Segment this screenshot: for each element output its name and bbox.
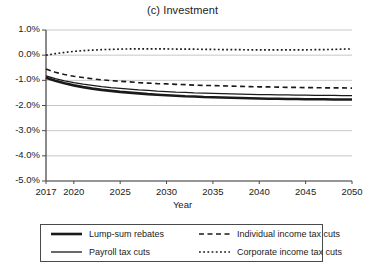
series-line-lump-sum-rebates xyxy=(46,78,352,100)
x-tick-label: 2050 xyxy=(332,186,365,197)
legend-swatch-dashed-icon xyxy=(198,229,231,239)
legend-label: Corporate income tax cuts xyxy=(237,247,342,257)
x-tick-label: 2035 xyxy=(193,186,233,197)
legend-swatch-solid-thick-icon xyxy=(50,229,83,239)
y-tick-label: 0.0% xyxy=(0,48,40,59)
series-layer xyxy=(46,49,352,100)
plot-svg xyxy=(0,0,365,215)
x-tick-label: 2045 xyxy=(286,186,326,197)
x-axis-title: Year xyxy=(0,199,365,210)
x-tick-label: 2040 xyxy=(239,186,279,197)
y-tick-label: -1.0% xyxy=(0,73,40,84)
investment-chart-figure: (c) Investment 1.0%0.0%-1.0%-2.0%-3.0%-4… xyxy=(0,0,365,270)
legend-item-corporate-income-tax-cuts: Corporate income tax cuts xyxy=(189,247,324,257)
y-tick-label: 1.0% xyxy=(0,23,40,34)
y-tick-label: -3.0% xyxy=(0,124,40,135)
legend-label: Lump-sum rebates xyxy=(89,229,164,239)
legend-swatch-dotted-icon xyxy=(198,247,231,257)
y-tick-label: -2.0% xyxy=(0,99,40,110)
x-tick-label: 2020 xyxy=(54,186,94,197)
legend: Lump-sum rebates Individual income tax c… xyxy=(40,224,323,262)
legend-label: Payroll tax cuts xyxy=(89,247,150,257)
legend-swatch-solid-thin-icon xyxy=(50,247,83,257)
x-tick-label: 2025 xyxy=(100,186,140,197)
y-tick-label: -5.0% xyxy=(0,174,40,185)
legend-item-lump-sum-rebates: Lump-sum rebates xyxy=(41,229,189,239)
legend-label: Individual income tax cuts xyxy=(237,229,340,239)
legend-item-individual-income-tax-cuts: Individual income tax cuts xyxy=(189,229,324,239)
plot-area: 1.0%0.0%-1.0%-2.0%-3.0%-4.0%-5.0% 201720… xyxy=(0,0,365,215)
y-tick-label: -4.0% xyxy=(0,149,40,160)
gridlines xyxy=(46,30,352,181)
x-tick-label: 2030 xyxy=(147,186,187,197)
series-line-corporate-income-tax-cuts xyxy=(46,49,352,55)
legend-item-payroll-tax-cuts: Payroll tax cuts xyxy=(41,247,189,257)
